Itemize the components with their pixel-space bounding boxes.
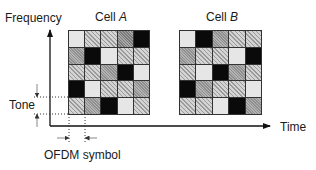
- resource-block: [213, 98, 228, 114]
- resource-block: [196, 65, 211, 81]
- ofdm-symbol-label: OFDM symbol: [44, 149, 121, 161]
- resource-block: [180, 98, 195, 114]
- resource-block: [85, 48, 100, 64]
- resource-block: [213, 65, 228, 81]
- resource-block: [118, 98, 133, 114]
- frequency-axis-label: Frequency: [5, 12, 62, 24]
- cell-a-resource-grid: [68, 30, 150, 115]
- cell-a-title: Cell A: [95, 11, 127, 23]
- resource-block: [180, 48, 195, 64]
- resource-block: [118, 65, 133, 81]
- resource-block: [69, 98, 84, 114]
- resource-block: [213, 48, 228, 64]
- resource-block: [101, 98, 116, 114]
- resource-block: [196, 81, 211, 97]
- resource-block: [246, 65, 261, 81]
- resource-block: [180, 31, 195, 47]
- resource-block: [118, 31, 133, 47]
- resource-block: [118, 48, 133, 64]
- cell-b-resource-grid: [179, 30, 262, 115]
- resource-block: [229, 65, 244, 81]
- resource-block: [134, 31, 149, 47]
- resource-block: [69, 65, 84, 81]
- resource-block: [69, 48, 84, 64]
- resource-block: [196, 31, 211, 47]
- resource-block: [134, 48, 149, 64]
- resource-block: [85, 31, 100, 47]
- resource-block: [196, 48, 211, 64]
- resource-block: [101, 48, 116, 64]
- resource-block: [229, 31, 244, 47]
- resource-block: [180, 65, 195, 81]
- resource-block: [180, 81, 195, 97]
- resource-block: [69, 81, 84, 97]
- resource-block: [69, 31, 84, 47]
- resource-block: [85, 65, 100, 81]
- resource-block: [229, 48, 244, 64]
- resource-block: [134, 98, 149, 114]
- axes-and-dimensions: [0, 0, 316, 170]
- resource-block: [101, 65, 116, 81]
- resource-block: [229, 98, 244, 114]
- resource-block: [85, 81, 100, 97]
- resource-block: [134, 65, 149, 81]
- cell-b-title: Cell B: [206, 11, 238, 23]
- resource-block: [229, 81, 244, 97]
- resource-block: [246, 48, 261, 64]
- time-axis-label: Time: [280, 121, 306, 133]
- resource-block: [196, 98, 211, 114]
- resource-block: [246, 81, 261, 97]
- resource-block: [118, 81, 133, 97]
- tone-label: Tone: [9, 99, 35, 111]
- resource-block: [85, 98, 100, 114]
- resource-block: [213, 81, 228, 97]
- resource-block: [101, 31, 116, 47]
- resource-block: [213, 31, 228, 47]
- resource-block: [101, 81, 116, 97]
- resource-block: [134, 81, 149, 97]
- resource-block: [246, 31, 261, 47]
- resource-block: [246, 98, 261, 114]
